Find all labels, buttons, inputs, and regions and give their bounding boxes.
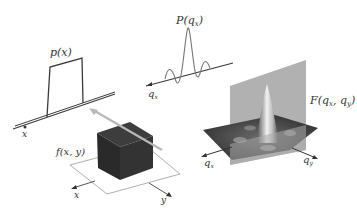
fourier-1d-axis-label: qx (148, 88, 158, 100)
profile-label: p(x) (50, 46, 72, 59)
x-axis-line (13, 94, 115, 129)
fourier-1d-label: P(qx) (175, 14, 203, 28)
fourier-2d: F(qx, qy) qx qy (201, 60, 355, 169)
y-axis-2d (149, 183, 170, 196)
ripple (244, 126, 256, 131)
fourier-2d-qx-label: qx (204, 157, 214, 169)
qx-axis-line (146, 63, 233, 86)
x-arrowhead-2d-icon (71, 185, 77, 189)
profile-1d: p(x) x (13, 46, 115, 139)
fourier-1d: P(qx) qx (146, 14, 233, 100)
profile-axis-label: x (22, 129, 27, 139)
fourier-2d-label: F(qx, qy) (309, 94, 355, 108)
object-axis-x-label: x (74, 190, 79, 200)
object-2d: f(x, y) x y (55, 108, 180, 205)
profile-baseline (15, 92, 115, 126)
rect-profile-curve (47, 58, 83, 117)
projection-arrowhead-icon (89, 108, 98, 115)
object-label: f(x, y) (55, 146, 85, 157)
projection-slice-diagram: p(x) x P(qx) qx f(x, y) x y (0, 0, 357, 214)
object-axis-y-label: y (160, 195, 167, 205)
